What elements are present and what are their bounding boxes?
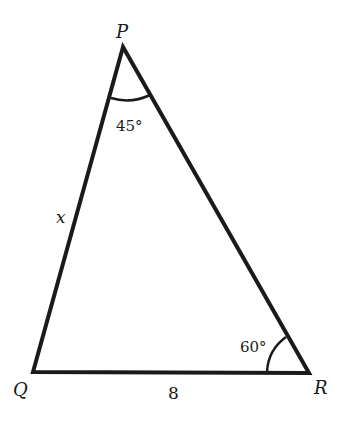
vertex-label-p: P <box>115 21 129 42</box>
triangle-pqr <box>33 47 309 373</box>
vertex-label-r: R <box>313 377 328 398</box>
side-label-pq: x <box>56 207 66 227</box>
angle-arc-p <box>111 95 150 100</box>
side-label-qr: 8 <box>168 383 179 403</box>
angle-label-p: 45° <box>116 117 143 135</box>
angle-arc-r <box>267 337 286 372</box>
triangle-diagram: P Q R 45° 60° x 8 <box>0 0 349 423</box>
vertex-label-q: Q <box>13 379 28 400</box>
angle-label-r: 60° <box>240 338 267 356</box>
